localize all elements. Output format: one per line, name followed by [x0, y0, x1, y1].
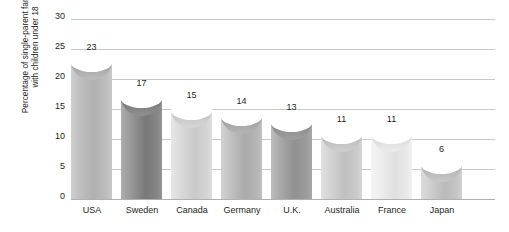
y-tick-label-15: 15 [47, 102, 65, 111]
y-tick-label-20: 20 [47, 72, 65, 81]
y-tick-label-10: 10 [47, 132, 65, 141]
y-tick-text: 25 [55, 41, 65, 51]
y-tick-text: 15 [55, 101, 65, 111]
x-label-australia: Australia [317, 206, 367, 215]
bar-value-label: 13 [271, 103, 312, 112]
x-label-canada: Canada [167, 206, 217, 215]
axis-baseline [71, 199, 495, 200]
bar-value-label: 23 [71, 43, 112, 52]
y-axis-title: Percentage of single-parent families wit… [16, 0, 46, 133]
bar-value-label: 11 [371, 115, 412, 124]
y-tick-label-0: 0 [47, 192, 65, 201]
y-tick-text: 10 [55, 131, 65, 141]
bar-value-label: 17 [121, 79, 162, 88]
x-label-usa: USA [67, 206, 117, 215]
bar-australia[interactable] [321, 133, 362, 199]
y-axis-title-line-1: Percentage of single-parent families [21, 0, 31, 113]
y-tick-label-25: 25 [47, 42, 65, 51]
y-tick-text: 20 [55, 71, 65, 81]
bar-canada[interactable] [171, 109, 212, 199]
bar-france[interactable] [371, 133, 412, 199]
bar-germany[interactable] [221, 115, 262, 199]
bar-series: 23 17 15 [71, 19, 495, 199]
y-axis-title-line-2: with children under 18 [31, 6, 41, 87]
bar-usa[interactable] [71, 61, 112, 199]
y-tick-text: 30 [55, 11, 65, 21]
bar-uk[interactable] [271, 121, 312, 199]
bar-sweden[interactable] [121, 97, 162, 199]
x-axis-labels: USA Sweden Canada Germany U.K. Australia… [71, 206, 495, 222]
bar-value-label: 15 [171, 91, 212, 100]
bar-japan[interactable] [421, 163, 462, 199]
bar-value-label: 14 [221, 97, 262, 106]
x-label-sweden: Sweden [117, 206, 167, 215]
x-label-uk: U.K. [267, 206, 317, 215]
x-label-france: France [367, 206, 417, 215]
bar-chart: Percentage of single-parent families wit… [0, 0, 509, 232]
y-tick-label-5: 5 [47, 162, 65, 171]
y-tick-text: 0 [60, 191, 65, 201]
y-tick-text: 5 [60, 161, 65, 171]
y-tick-label-30: 30 [47, 12, 65, 21]
bar-value-label: 6 [421, 145, 462, 154]
bar-value-label: 11 [321, 115, 362, 124]
x-label-germany: Germany [217, 206, 267, 215]
plot-area: 23 17 15 [71, 19, 495, 199]
x-label-japan: Japan [417, 206, 467, 215]
